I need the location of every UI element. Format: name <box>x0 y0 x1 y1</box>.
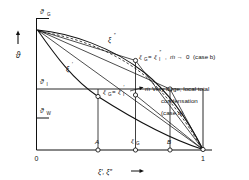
case-a-annotation: ξ G = ξ I ′ ṁ Very large, local total co… <box>103 85 209 116</box>
case-b-xi-G: ξ <box>139 53 142 61</box>
case-a-line2: condensation <box>161 97 198 104</box>
theta-G-subscript: G <box>47 12 51 17</box>
xaxis-label-A: A <box>94 138 99 145</box>
node-xi-G-boil <box>133 93 137 97</box>
theta-G-label: ϑ <box>40 8 45 15</box>
case-a-line3: (case a) <box>161 109 183 116</box>
x-axis-title-group: ξ′, ξ″ <box>98 168 144 176</box>
xaxis-tick-xi-G <box>133 148 137 152</box>
case-a-mdot: ṁ <box>145 85 150 92</box>
y-axis-arrow-head <box>16 31 20 36</box>
xaxis-label-B: B <box>167 138 171 145</box>
xaxis-label-xi-G-sub: G <box>136 141 140 146</box>
xaxis-label-unity: 1 <box>201 155 205 162</box>
dew-curve-label: ξ <box>108 36 112 44</box>
case-b-xi-I-sub: I <box>159 57 160 62</box>
case-a-pointer-head <box>139 86 143 90</box>
y-axis-label: ϑ <box>16 50 21 60</box>
case-b-annotation: ξ G = ξ I ″ , ṁ → 0 (case b) <box>139 50 215 62</box>
chord-to-xi-G-upper <box>38 30 136 61</box>
theta-I-subscript: I <box>47 82 48 87</box>
xaxis-label-origin: 0 <box>35 155 39 162</box>
case-a-xi-G: ξ <box>103 88 106 96</box>
case-a-xi-I-prime: ′ <box>124 85 125 90</box>
dew-curve-prime: ″ <box>114 33 116 38</box>
boiling-curve-prime: ′ <box>72 62 73 67</box>
x-axis-title: ξ′, ξ″ <box>98 168 112 176</box>
case-b-comma: , <box>165 53 167 60</box>
case-b-arrow: → <box>177 53 183 60</box>
phase-equilibrium-diagram: ϑ ϑ G ϑ I ϑ W ξ ″ ξ ′ ξ G = ξ I ″ , ṁ → … <box>0 0 249 180</box>
case-b-limit: 0 <box>186 53 190 60</box>
diagram-canvas: ϑ ϑ G ϑ I ϑ W ξ ″ ξ ′ ξ G = ξ I ″ , ṁ → … <box>0 0 249 180</box>
theta-W-subscript: W <box>47 111 52 116</box>
x-axis-title-arrow-head <box>140 169 145 173</box>
case-b-case-text: (case b) <box>193 53 215 60</box>
xaxis-tick-A <box>96 148 100 152</box>
case-a-xi-I-sub: I <box>123 92 124 97</box>
theta-W-label: ϑ <box>40 107 45 114</box>
case-b-xi-I: ξ <box>154 53 157 61</box>
case-b-xi-I-prime: ″ <box>160 50 162 55</box>
case-a-line1: Very large, local total <box>152 85 209 92</box>
case-a-xi-I: ξ <box>118 88 121 96</box>
case-b-mdot: ṁ <box>170 53 175 60</box>
xaxis-label-xi-G: ξ <box>131 137 134 145</box>
node-xi-G-dew <box>133 58 137 62</box>
xaxis-tick-B <box>168 148 172 152</box>
node-A-intersection <box>96 94 100 98</box>
theta-I-label: ϑ <box>40 78 45 85</box>
case-b-equals: = <box>148 53 152 60</box>
case-a-equals: = <box>112 88 116 95</box>
node-corner-unity <box>201 147 205 151</box>
